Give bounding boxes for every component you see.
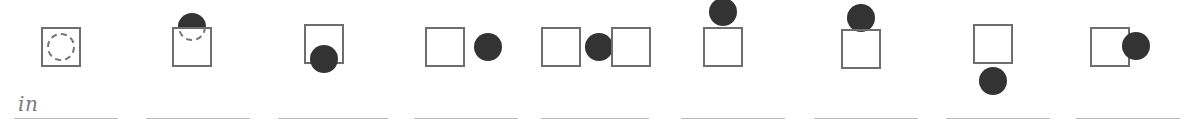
box-shape-left <box>541 27 581 67</box>
diagram-ball-out-of-box <box>140 0 268 92</box>
exercise-item-1: in <box>8 0 136 125</box>
diagram-ball-bottom-edge <box>272 0 400 92</box>
answer-line-6[interactable] <box>681 118 785 119</box>
answer-text-1: in <box>18 92 38 116</box>
ball-shape-dashed <box>47 33 75 61</box>
exercise-item-6 <box>675 0 803 125</box>
ball-shape-emerging <box>178 13 206 41</box>
exercise-item-3 <box>272 0 400 125</box>
answer-area-1[interactable]: in <box>8 85 136 119</box>
answer-area-3[interactable] <box>272 85 400 119</box>
diagram-ball-beside-box <box>408 0 536 92</box>
ball-shape <box>847 4 875 32</box>
diagram-ball-below-box <box>940 0 1068 92</box>
answer-line-3[interactable] <box>278 118 388 119</box>
diagram-ball-above-box <box>675 0 803 92</box>
box-shape <box>973 24 1013 64</box>
diagram-ball-in-box <box>8 0 136 92</box>
answer-area-7[interactable] <box>808 85 936 119</box>
preposition-worksheet-row: in <box>0 0 1202 125</box>
exercise-item-9 <box>1070 0 1198 125</box>
ball-shape <box>1122 32 1150 60</box>
answer-area-2[interactable] <box>140 85 268 119</box>
box-shape <box>841 29 881 69</box>
answer-line-4[interactable] <box>414 118 518 119</box>
ball-shape <box>585 33 613 61</box>
answer-area-8[interactable] <box>940 85 1068 119</box>
exercise-item-8 <box>940 0 1068 125</box>
answer-area-6[interactable] <box>675 85 803 119</box>
ball-shape <box>310 45 338 73</box>
answer-line-5[interactable] <box>541 118 649 119</box>
answer-line-9[interactable] <box>1076 118 1180 119</box>
box-shape <box>425 27 465 67</box>
answer-line-8[interactable] <box>946 118 1050 119</box>
ball-solid-cap <box>178 13 206 27</box>
exercise-item-4 <box>408 0 536 125</box>
diagram-ball-on-box <box>808 0 936 92</box>
ball-shape <box>474 33 502 61</box>
ball-shape <box>709 0 737 26</box>
answer-line-7[interactable] <box>814 118 918 119</box>
answer-line-2[interactable] <box>146 118 250 119</box>
exercise-item-2 <box>140 0 268 125</box>
exercise-item-5 <box>535 0 667 125</box>
exercise-item-7 <box>808 0 936 125</box>
answer-area-5[interactable] <box>535 85 667 119</box>
answer-area-4[interactable] <box>408 85 536 119</box>
box-shape <box>703 27 743 67</box>
diagram-ball-between-boxes <box>535 0 667 92</box>
answer-area-9[interactable] <box>1070 85 1198 119</box>
answer-line-1[interactable] <box>14 118 118 119</box>
diagram-ball-touching-box <box>1070 0 1198 92</box>
box-shape-right <box>611 27 651 67</box>
